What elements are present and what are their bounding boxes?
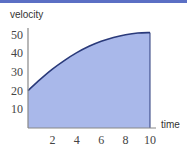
y-tick-label: 30	[11, 65, 23, 79]
y-axis-label: velocity	[10, 9, 43, 20]
x-tick-label: 10	[144, 133, 156, 147]
x-tick-label: 2	[49, 133, 55, 147]
velocity-time-chart: velocity time 1020304050 246810	[0, 0, 187, 149]
y-tick-label: 50	[11, 28, 23, 42]
x-tick-label: 4	[74, 133, 80, 147]
x-tick-label: 6	[98, 133, 104, 147]
x-tick-labels: 246810	[49, 133, 156, 147]
y-tick-label: 20	[11, 84, 23, 98]
x-tick-label: 8	[123, 133, 129, 147]
y-tick-label: 10	[11, 102, 23, 116]
y-tick-label: 40	[11, 46, 23, 60]
x-axis-label: time	[161, 119, 180, 130]
y-tick-labels: 1020304050	[11, 28, 23, 117]
